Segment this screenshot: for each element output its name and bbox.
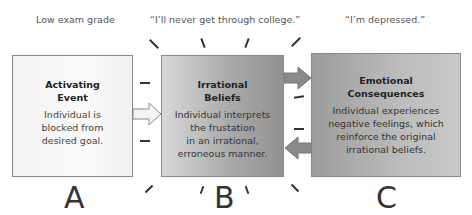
- irrational-beliefs-box: Irrational Beliefs Individual interprets…: [161, 55, 284, 177]
- desc-line: the frustation: [162, 121, 283, 134]
- ray-icon: [291, 184, 299, 192]
- desc-line: Individual interprets: [162, 108, 283, 121]
- ray-icon: [200, 38, 205, 48]
- desc-line: in an irrational,: [162, 134, 283, 147]
- ray-icon: [244, 38, 249, 48]
- caption-activating-event: Low exam grade: [36, 14, 115, 25]
- desc-line: reinforce the original: [312, 130, 460, 143]
- desc-line: irrational beliefs.: [312, 143, 460, 156]
- desc-line: erroneous manner.: [162, 147, 283, 160]
- emotional-consequences-box: Emotional Consequences Individual experi…: [311, 53, 461, 177]
- emotional-consequences-title: Emotional Consequences: [312, 74, 460, 100]
- activating-event-title: Activating Event: [13, 78, 132, 104]
- label-b: B: [214, 180, 235, 215]
- ray-icon: [294, 128, 304, 130]
- caption-irrational-belief: “I’ll never get through college.”: [150, 14, 300, 25]
- activating-event-box: Activating Event Individual is blocked f…: [12, 55, 133, 177]
- ray-icon: [140, 82, 150, 84]
- ray-icon: [294, 95, 304, 98]
- title-line: Beliefs: [162, 91, 283, 104]
- activating-event-description: Individual is blocked from desired goal.: [13, 108, 132, 147]
- irrational-beliefs-description: Individual interprets the frustation in …: [162, 108, 283, 160]
- caption-emotional-consequence: “I’m depressed.”: [345, 14, 425, 25]
- arrow-a-to-b-icon: [133, 102, 163, 126]
- desc-line: desired goal.: [13, 134, 132, 147]
- title-line: Event: [13, 91, 132, 104]
- desc-line: blocked from: [13, 121, 132, 134]
- arrow-b-to-c-icon: [284, 66, 312, 90]
- irrational-beliefs-title: Irrational Beliefs: [162, 78, 283, 104]
- title-line: Emotional: [312, 74, 460, 87]
- emotional-consequences-description: Individual experiences negative feelings…: [312, 104, 460, 156]
- title-line: Activating: [13, 78, 132, 91]
- desc-line: Individual is: [13, 108, 132, 121]
- title-line: Consequences: [312, 87, 460, 100]
- desc-line: negative feelings, which: [312, 117, 460, 130]
- ray-icon: [200, 186, 205, 194]
- ray-icon: [149, 39, 159, 49]
- label-c: C: [376, 180, 397, 215]
- ray-icon: [140, 140, 150, 142]
- arrow-c-to-b-icon: [284, 136, 312, 160]
- ray-icon: [291, 37, 301, 47]
- label-a: A: [64, 180, 85, 215]
- ray-icon: [245, 186, 250, 194]
- ray-icon: [145, 185, 153, 193]
- title-line: Irrational: [162, 78, 283, 91]
- desc-line: Individual experiences: [312, 104, 460, 117]
